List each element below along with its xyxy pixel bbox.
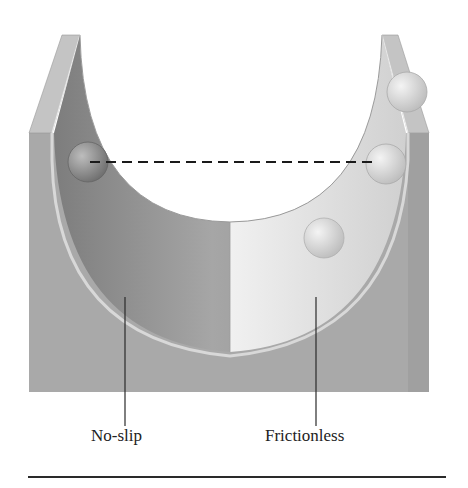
bottom-rule [28, 476, 446, 478]
frictionless-ball-level-icon [366, 144, 406, 184]
frictionless-ball-high-icon [387, 72, 427, 112]
frictionless-ball-mid-icon [304, 218, 344, 258]
noslip-label: No-slip [91, 426, 142, 446]
frictionless-label: Frictionless [265, 426, 344, 446]
noslip-ball-icon [68, 142, 108, 182]
u-track-diagram [0, 0, 468, 488]
